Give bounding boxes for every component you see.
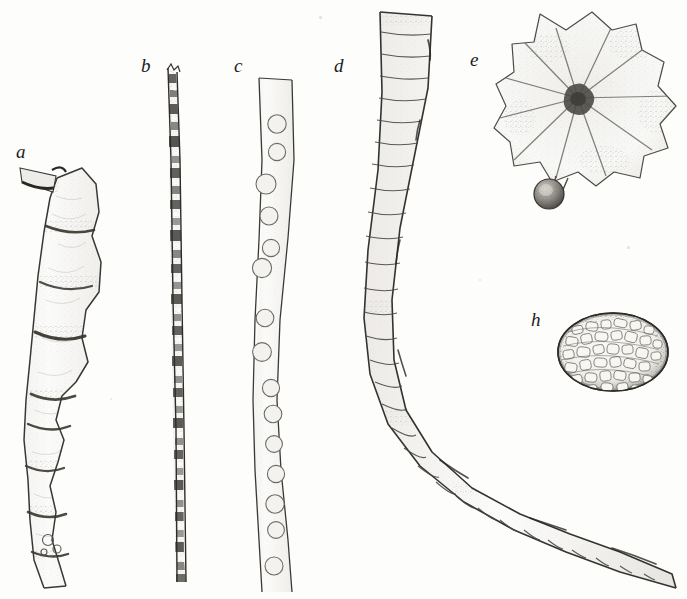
figure-label-e: e xyxy=(470,50,478,69)
figure-label-d: d xyxy=(334,56,344,75)
paper-speck xyxy=(110,398,112,400)
figure-label-c: c xyxy=(234,56,242,75)
figure-label-h: h xyxy=(531,310,541,329)
paper-speck xyxy=(319,16,322,19)
figure-label-a: a xyxy=(16,142,26,161)
paper-speck xyxy=(479,279,481,281)
illustration-plate: a b c d e h xyxy=(0,0,687,599)
paper-speck xyxy=(627,246,630,249)
plate-artwork xyxy=(0,0,687,599)
figure-label-b: b xyxy=(141,56,151,75)
figure-e-sporangium xyxy=(534,179,564,209)
